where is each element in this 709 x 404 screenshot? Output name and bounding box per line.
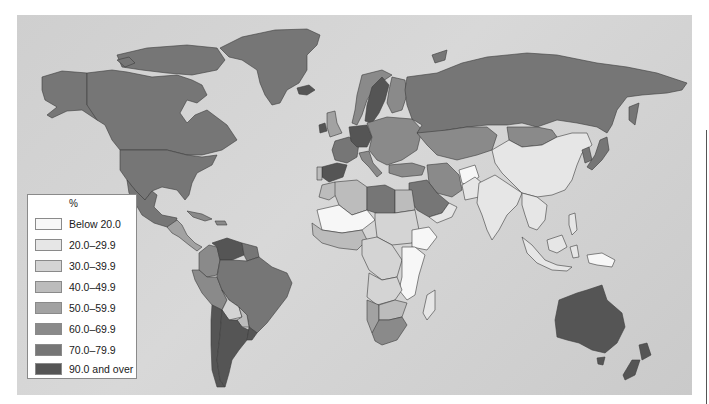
region-novaya-zemlya <box>432 50 447 63</box>
region-korea <box>582 147 592 163</box>
region-portugal <box>317 167 322 180</box>
region-uk <box>327 111 342 137</box>
south-america <box>192 238 292 387</box>
region-spain <box>322 163 347 182</box>
legend-swatch <box>35 363 62 375</box>
region-egypt <box>395 190 415 213</box>
oceania <box>555 285 651 380</box>
region-kamchatka <box>629 103 639 125</box>
legend-item: 60.0–69.9 <box>35 322 116 336</box>
legend-swatch <box>35 239 62 251</box>
region-colombia <box>199 245 220 277</box>
region-ethiopia <box>412 227 437 250</box>
legend-swatch <box>35 260 62 272</box>
region-tasmania <box>597 357 605 365</box>
legend-label: 40.0–49.9 <box>69 281 116 293</box>
legend-item: 50.0–59.9 <box>35 301 116 315</box>
legend-item: Below 20.0 <box>35 217 121 231</box>
region-ireland <box>319 123 327 133</box>
legend-swatch <box>35 323 62 335</box>
region-east-africa <box>399 247 425 300</box>
region-eastern-europe <box>367 117 422 165</box>
region-sulawesi <box>570 245 579 258</box>
legend: % Below 20.0 20.0–29.9 30.0–39.9 40.0–49… <box>27 194 137 379</box>
legend-swatch <box>35 281 62 293</box>
region-turkey <box>389 163 425 177</box>
region-borneo <box>547 235 567 253</box>
legend-label: 50.0–59.9 <box>69 302 116 314</box>
region-philippines <box>569 213 577 235</box>
region-caribbean <box>187 211 212 221</box>
legend-label: 90.0 and over <box>69 363 133 375</box>
region-new-zealand <box>639 343 651 360</box>
legend-label: 60.0–69.9 <box>69 323 116 335</box>
region-australia <box>555 285 625 353</box>
legend-item: 90.0 and over <box>35 362 133 376</box>
legend-item: 40.0–49.9 <box>35 280 116 294</box>
region-central-america <box>167 220 202 251</box>
legend-swatch <box>35 302 62 314</box>
legend-item: 70.0–79.9 <box>35 343 116 357</box>
legend-label: 20.0–29.9 <box>69 239 116 251</box>
region-russia <box>405 53 687 135</box>
region-southeast-asia <box>522 193 547 230</box>
region-canada <box>87 70 237 155</box>
legend-item: 30.0–39.9 <box>35 259 116 273</box>
region-libya <box>367 185 395 215</box>
legend-swatch <box>35 344 62 356</box>
region-central-asia <box>417 127 497 160</box>
region-new-zealand-south <box>623 360 640 380</box>
legend-swatch <box>35 218 62 230</box>
legend-item: 20.0–29.9 <box>35 238 116 252</box>
legend-label: Below 20.0 <box>69 218 121 230</box>
region-papua-new-guinea <box>587 253 615 267</box>
region-madagascar <box>423 290 435 320</box>
region-iceland <box>297 85 315 95</box>
region-finland <box>387 77 407 113</box>
page-edge-rule <box>706 130 707 404</box>
legend-label: 70.0–79.9 <box>69 344 116 356</box>
legend-title: % <box>28 198 136 209</box>
region-hispaniola <box>215 221 227 225</box>
legend-label: 30.0–39.9 <box>69 260 116 272</box>
region-canadian-arctic <box>117 45 225 75</box>
